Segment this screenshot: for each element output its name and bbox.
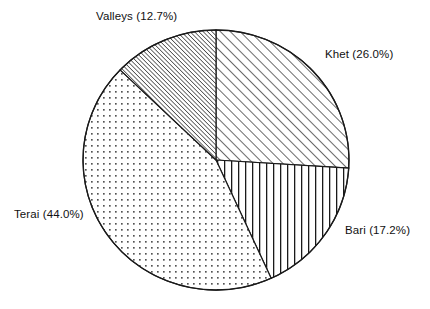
pie-chart: Valleys (12.7%) Khet (26.0%) Bari (17.2%… xyxy=(0,0,430,309)
pie-label-valleys: Valleys (12.7%) xyxy=(96,10,177,23)
pie-label-khet: Khet (26.0%) xyxy=(325,48,393,61)
pie-chart-canvas xyxy=(0,0,430,309)
pie-label-bari: Bari (17.2%) xyxy=(345,224,410,237)
pie-label-terai: Terai (44.0%) xyxy=(14,208,84,221)
